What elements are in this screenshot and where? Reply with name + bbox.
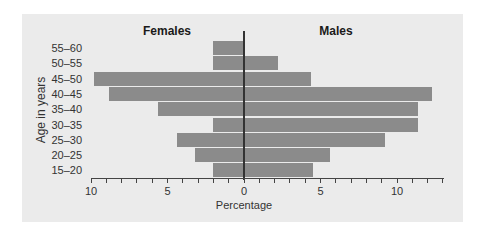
male-bar [244, 102, 418, 116]
x-tick [442, 178, 443, 183]
female-bar [109, 87, 244, 101]
x-tick [198, 178, 199, 183]
x-tick-label: 5 [164, 185, 170, 197]
x-tick [289, 178, 290, 183]
x-tick [397, 178, 398, 183]
x-tick [244, 178, 245, 183]
male-bar [244, 87, 432, 101]
x-tick [274, 178, 275, 183]
x-tick [91, 178, 92, 183]
female-bar [195, 148, 244, 162]
x-tick [136, 178, 137, 183]
x-tick [182, 178, 183, 183]
x-tick [305, 178, 306, 183]
x-tick [106, 178, 107, 183]
age-group-label: 15–20 [30, 163, 82, 177]
female-bar [158, 102, 244, 116]
x-tick [213, 178, 214, 183]
female-bar [177, 133, 244, 147]
x-tick-label: 10 [391, 185, 403, 197]
x-tick [351, 178, 352, 183]
x-tick [381, 178, 382, 183]
x-axis-label: Percentage [216, 199, 272, 211]
age-group-label: 25–30 [30, 133, 82, 147]
age-group-label: 30–35 [30, 118, 82, 132]
x-axis-line [91, 178, 444, 179]
x-tick [259, 178, 260, 183]
x-tick [412, 178, 413, 183]
age-group-label: 20–25 [30, 148, 82, 162]
x-tick-label: 10 [85, 185, 97, 197]
x-tick [152, 178, 153, 183]
center-axis-line [243, 31, 245, 180]
female-bar [213, 56, 244, 70]
female-bar [213, 118, 244, 132]
female-bar [94, 72, 244, 86]
age-group-label: 50–55 [30, 56, 82, 70]
x-tick [335, 178, 336, 183]
x-tick [167, 178, 168, 183]
x-tick [228, 178, 229, 183]
x-tick-label: 5 [317, 185, 323, 197]
male-bar [244, 148, 330, 162]
male-bar [244, 56, 278, 70]
age-group-label: 55–60 [30, 41, 82, 55]
male-bar [244, 163, 313, 177]
male-bar [244, 118, 418, 132]
females-title: Females [143, 24, 191, 38]
x-tick [427, 178, 428, 183]
age-group-label: 40–45 [30, 87, 82, 101]
x-tick [320, 178, 321, 183]
female-bar [213, 41, 244, 55]
age-group-label: 35–40 [30, 102, 82, 116]
male-bar [244, 133, 385, 147]
age-group-label: 45–50 [30, 72, 82, 86]
x-tick [121, 178, 122, 183]
males-title: Males [319, 24, 352, 38]
x-tick-label: 0 [241, 185, 247, 197]
male-bar [244, 72, 311, 86]
x-tick [366, 178, 367, 183]
female-bar [213, 163, 244, 177]
